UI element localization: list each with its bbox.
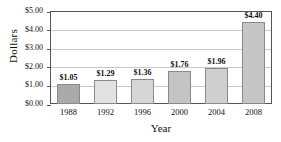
bar-value-label: $1.29 (96, 70, 114, 78)
x-axis-tick-label: 2000 (161, 108, 198, 117)
x-axis-tick-label: 1992 (87, 108, 124, 117)
bar-1996[interactable] (131, 79, 153, 104)
bar-2004[interactable] (205, 68, 227, 104)
bars-layer: $1.05$1.29$1.36$1.76$1.96$4.40 (50, 11, 272, 104)
y-axis-tick-label: $2.00 (0, 63, 43, 71)
bar-value-label: $4.40 (244, 12, 262, 20)
y-axis-tick-label: $1.00 (0, 81, 43, 89)
bar-1992[interactable] (94, 80, 116, 104)
bar-value-label: $1.76 (170, 61, 188, 69)
bar-group: $1.29 (94, 11, 116, 104)
x-axis-title: Year (50, 122, 272, 134)
bar-group: $4.40 (242, 11, 264, 104)
y-axis-tick-label: $0.00 (0, 100, 43, 108)
bar-group: $1.76 (168, 11, 190, 104)
x-axis-tick-label: 2004 (198, 108, 235, 117)
bar-value-label: $1.05 (59, 74, 77, 82)
bar-value-label: $1.96 (207, 58, 225, 66)
y-axis-tick-label: $3.00 (0, 44, 43, 52)
bar-value-label: $1.36 (133, 69, 151, 77)
x-axis-tick-label: 1996 (124, 108, 161, 117)
bar-group: $1.96 (205, 11, 227, 104)
bar-1988[interactable] (57, 84, 79, 104)
bar-2008[interactable] (242, 22, 264, 104)
x-axis-tick-label: 2008 (235, 108, 272, 117)
bar-group: $1.36 (131, 11, 153, 104)
y-axis-tick-label: $5.00 (0, 7, 43, 15)
y-axis-tick-label: $4.00 (0, 26, 43, 34)
bar-chart: Dollars $0.00$1.00$2.00$3.00$4.00$5.00 $… (0, 0, 281, 142)
y-axis-tick (47, 105, 51, 106)
bar-2000[interactable] (168, 71, 190, 104)
bar-group: $1.05 (57, 11, 79, 104)
x-axis-tick-label: 1988 (50, 108, 87, 117)
